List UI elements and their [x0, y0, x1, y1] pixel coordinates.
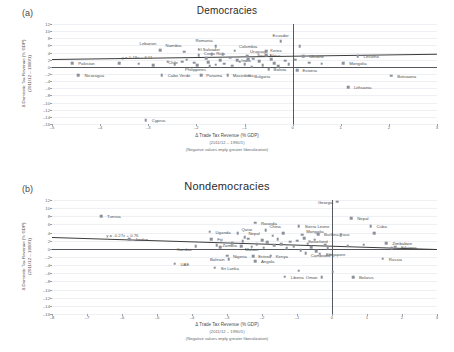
data-point — [234, 49, 237, 52]
data-point — [254, 260, 257, 263]
data-point — [227, 258, 230, 261]
data-point — [258, 60, 261, 63]
x-tick-label: –8 — [50, 315, 55, 320]
data-point — [381, 257, 384, 260]
y-axis-line — [293, 24, 294, 124]
y-tick-mark — [50, 241, 52, 242]
point-label: Lithuania — [354, 85, 371, 90]
x-tick-label: –4 — [98, 125, 103, 130]
data-point — [215, 244, 218, 247]
data-point — [273, 244, 276, 247]
data-point — [276, 238, 279, 241]
gridline — [52, 31, 437, 32]
gridline — [52, 290, 437, 291]
data-point — [71, 62, 74, 65]
y-tick-mark — [50, 38, 52, 39]
y-tick-label: –2 — [45, 255, 50, 260]
y-tick-label: –12 — [43, 295, 50, 300]
panel-democracies: (a) Democracies 121086420–2–4–6–8–10–12–… — [0, 0, 454, 176]
point-label: Kenya — [276, 253, 288, 258]
y-tick-label: –8 — [45, 93, 50, 98]
point-label: Korea — [270, 48, 281, 53]
data-point — [205, 57, 208, 60]
x-tick-label: 0 — [291, 125, 293, 130]
y-tick-mark — [50, 45, 52, 46]
data-point — [196, 64, 199, 67]
data-point — [265, 54, 268, 57]
data-point — [173, 262, 176, 265]
x-tick-label: –3 — [225, 315, 230, 320]
data-point — [197, 54, 200, 57]
point-label: Cabo Verde — [168, 73, 191, 78]
data-point — [297, 225, 300, 228]
y-tick-mark — [50, 103, 52, 104]
y-tick-label: –4 — [45, 263, 50, 268]
point-label: Philippines — [185, 67, 206, 72]
y-tick-label: 10 — [45, 29, 50, 34]
data-point — [350, 217, 353, 220]
data-point — [362, 243, 365, 246]
data-point — [331, 270, 334, 273]
x-tick-label: –1 — [242, 125, 247, 130]
gridline — [52, 110, 437, 111]
data-point — [236, 232, 239, 235]
y-tick-label: –10 — [43, 100, 50, 105]
data-point — [329, 253, 332, 256]
gridline — [52, 24, 437, 25]
y-tick-label: –14 — [43, 303, 50, 308]
data-point — [283, 275, 286, 278]
x-axis-title-nondemocracies: Δ Trade Tax Revenue (% GDP) — [0, 322, 454, 327]
data-point — [207, 61, 210, 64]
data-point — [304, 252, 307, 255]
y-tick-label: 6 — [48, 43, 50, 48]
y-tick-label: 12 — [45, 22, 50, 27]
y-tick-mark — [50, 117, 52, 118]
data-point — [271, 235, 274, 238]
gridline — [52, 281, 437, 282]
data-point — [261, 64, 264, 67]
data-point — [77, 74, 80, 77]
x-axis-line — [52, 67, 437, 68]
y-tick-label: –10 — [43, 287, 50, 292]
point-label: El Salvador — [198, 47, 220, 52]
data-point — [210, 53, 213, 56]
data-point — [159, 49, 162, 52]
data-point — [241, 240, 244, 243]
data-point — [247, 58, 250, 61]
x-axis-note-democracies: (Negative values imply greater liberaliz… — [0, 147, 454, 152]
gridline — [52, 88, 437, 89]
data-point — [269, 254, 272, 257]
x-tick-label: –5 — [50, 125, 55, 130]
y-tick-label: –12 — [43, 107, 50, 112]
data-point — [100, 215, 103, 218]
point-label: Zambia — [223, 243, 237, 248]
y-tick-label: 6 — [48, 222, 50, 227]
gridline — [52, 314, 437, 315]
x-tick-label: 3 — [436, 315, 438, 320]
point-label: Mongolia — [306, 228, 323, 233]
y-axis-title-nondemocracies: Δ Domestic Tax Revenue (% GDP)(2011/12 –… — [21, 200, 32, 314]
data-point — [210, 238, 213, 241]
data-point — [289, 240, 292, 243]
x-tick-label: –3 — [146, 125, 151, 130]
point-label: Russia — [389, 256, 402, 261]
point-label: Nicaragua — [84, 73, 104, 78]
panel-nondemocracies: (b) Nondemocracies 121086420–2–4–6–8–10–… — [0, 176, 454, 352]
y-tick-label: 8 — [48, 214, 50, 219]
data-point — [246, 54, 249, 57]
point-label: Burkina Faso — [324, 232, 349, 237]
regression-equation: y = 0.18x + 3.11 — [122, 55, 153, 60]
point-label: Mongolia — [349, 60, 366, 65]
y-tick-label: –14 — [43, 114, 50, 119]
x-tick-label: 1 — [340, 125, 342, 130]
x-axis-note-nondemocracies: (Negative values imply greater liberaliz… — [0, 336, 454, 341]
data-point — [226, 254, 229, 257]
data-point — [231, 64, 234, 67]
point-label: Tunisia — [107, 214, 121, 219]
gridline — [52, 208, 437, 209]
gridline — [52, 117, 437, 118]
data-point — [277, 65, 280, 68]
scatter-plot-nondemocracies: 121086420–2–4–6–8–10–12–14–16–8–7–6–5–4–… — [52, 200, 437, 314]
point-label: Oman — [306, 275, 318, 280]
point-label: Fiji — [217, 237, 223, 242]
